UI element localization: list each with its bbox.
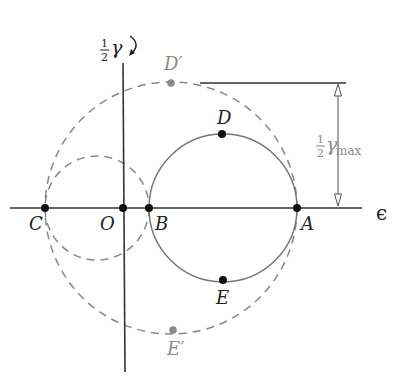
dimension-arrowhead-down xyxy=(335,194,342,206)
point-E xyxy=(219,276,227,284)
mohr-circle-diagram: C O B A D E D′ E′ ϵ 1 2 γ 1 2 γ max xyxy=(0,0,409,384)
label-E: E xyxy=(215,287,229,308)
label-O: O xyxy=(100,213,115,234)
epsilon-axis-label: ϵ xyxy=(376,201,387,225)
point-D xyxy=(218,130,226,138)
gamma-max-subscript: max xyxy=(336,144,362,158)
label-C: C xyxy=(29,213,43,234)
gamma-symbol: γ xyxy=(111,36,123,58)
point-D-prime xyxy=(167,79,175,87)
label-D: D xyxy=(216,107,232,128)
gamma-frac-num: 1 xyxy=(101,37,108,50)
gamma-frac-den: 2 xyxy=(101,51,108,64)
point-O xyxy=(119,204,127,212)
dimension-arrowhead-up xyxy=(335,84,342,96)
gamma-max-frac-den: 2 xyxy=(317,147,324,160)
gamma-max-frac-num: 1 xyxy=(317,133,324,146)
point-C xyxy=(41,204,49,212)
label-E-prime: E′ xyxy=(166,338,184,359)
point-A xyxy=(293,204,301,212)
point-B xyxy=(145,204,153,212)
gamma-axis xyxy=(123,63,125,372)
point-E-prime xyxy=(169,326,177,334)
gamma-axis-label: 1 2 γ xyxy=(100,36,136,64)
label-D-prime: D′ xyxy=(163,53,183,74)
gamma-max-label: 1 2 γ max xyxy=(316,133,362,160)
label-B: B xyxy=(154,213,168,234)
label-A: A xyxy=(299,213,314,234)
